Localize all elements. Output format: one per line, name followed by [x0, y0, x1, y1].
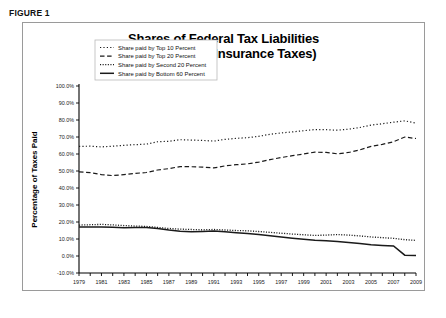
x-tick-label: 2005: [365, 279, 377, 285]
x-tick-label: 2007: [388, 279, 400, 285]
series-line: [79, 137, 416, 176]
x-tick-label: 1989: [185, 279, 197, 285]
y-tick-label: 100.0%: [56, 83, 74, 89]
figure-label: FIGURE 1: [9, 8, 50, 18]
x-tick-label: 2001: [320, 279, 332, 285]
x-tick-label: 1997: [275, 279, 287, 285]
chart-frame: Shares of Federal Tax Liabilities (Net o…: [22, 22, 425, 291]
series-line: [79, 224, 416, 240]
y-axis-ticks: 100.0%90.0%80.0%70.0%60.0%50.0%40.0%30.0…: [56, 83, 79, 276]
x-tick-label: 1979: [73, 279, 85, 285]
chart-legend: Share paid by Top 10 PercentShare paid b…: [95, 40, 217, 80]
x-tick-label: 1983: [118, 279, 130, 285]
y-tick-label: 50.0%: [59, 168, 74, 174]
figure-container: FIGURE 1 Shares of Federal Tax Liabiliti…: [0, 0, 446, 318]
legend-label: Share paid by Second 20 Percent: [118, 62, 206, 68]
x-tick-label: 1987: [163, 279, 175, 285]
y-tick-label: 70.0%: [59, 134, 74, 140]
y-tick-label: 20.0%: [59, 219, 74, 225]
x-tick-label: 1995: [253, 279, 265, 285]
y-axis-title: Percentage of Taxes Paid: [30, 131, 39, 227]
legend-label: Share paid by Top 20 Percent: [118, 53, 196, 59]
x-tick-label: 1991: [208, 279, 220, 285]
legend-label: Share paid by Top 10 Percent: [118, 45, 196, 51]
y-tick-label: 10.0%: [59, 236, 74, 242]
x-tick-label: 1993: [230, 279, 242, 285]
legend-label: Share paid by Bottom 60 Percent: [118, 71, 205, 77]
x-tick-label: 1999: [298, 279, 310, 285]
x-tick-label: 1981: [95, 279, 107, 285]
y-tick-label: 30.0%: [59, 202, 74, 208]
x-tick-label: 2003: [343, 279, 355, 285]
x-tick-label: 1985: [140, 279, 152, 285]
line-chart-plot: 100.0%90.0%80.0%70.0%60.0%50.0%40.0%30.0…: [23, 23, 424, 290]
data-series-group: [79, 121, 416, 256]
y-tick-label: 40.0%: [59, 185, 74, 191]
x-axis-ticks: 1979198119831985198719891991199319951997…: [73, 273, 422, 285]
x-tick-label: 2009: [410, 279, 422, 285]
y-tick-label: 60.0%: [59, 151, 74, 157]
y-tick-label: 80.0%: [59, 117, 74, 123]
y-tick-label: -10.0%: [57, 270, 74, 276]
y-tick-label: 0.0%: [62, 253, 74, 259]
series-line: [79, 121, 416, 147]
series-line: [79, 227, 416, 256]
y-tick-label: 90.0%: [59, 100, 74, 106]
